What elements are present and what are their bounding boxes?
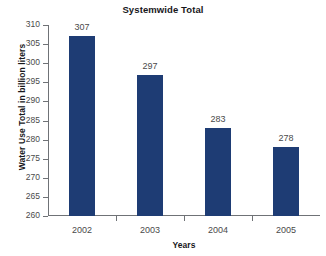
y-axis-tick-label: 275 — [26, 153, 40, 163]
y-axis-tick: 310 — [43, 25, 48, 26]
x-axis-tick — [184, 216, 185, 221]
y-axis-tick-label: 305 — [26, 38, 40, 48]
x-axis-tick — [252, 216, 253, 221]
x-axis-category-label: 2002 — [58, 225, 106, 235]
y-axis-tick-label: 270 — [26, 172, 40, 182]
y-axis-tick-label: 285 — [26, 115, 40, 125]
y-axis-tick: 265 — [43, 197, 48, 198]
y-axis-tick-label: 310 — [26, 19, 40, 29]
y-axis-tick-label: 290 — [26, 95, 40, 105]
y-axis-tick-label: 295 — [26, 76, 40, 86]
y-axis-tick: 295 — [43, 82, 48, 83]
x-axis-category-label: 2004 — [194, 225, 242, 235]
y-axis-tick: 305 — [43, 44, 48, 45]
bar — [205, 128, 231, 216]
bar-value-label: 307 — [62, 22, 102, 32]
plot-area: 3103053002952902852802752702652603072002… — [48, 25, 320, 216]
y-axis-tick: 275 — [43, 159, 48, 160]
y-axis-tick-label: 265 — [26, 191, 40, 201]
y-axis-tick: 300 — [43, 63, 48, 64]
y-axis-line — [48, 25, 49, 216]
x-axis-category-label: 2003 — [126, 225, 174, 235]
bar-value-label: 283 — [198, 114, 238, 124]
y-axis-tick-label: 300 — [26, 57, 40, 67]
bar-value-label: 297 — [130, 61, 170, 71]
bar — [137, 75, 163, 216]
bar-value-label: 278 — [266, 133, 306, 143]
y-axis-tick: 280 — [43, 140, 48, 141]
y-axis-tick-label: 260 — [26, 210, 40, 220]
x-axis-category-label: 2005 — [262, 225, 310, 235]
y-axis-tick: 285 — [43, 121, 48, 122]
bar — [69, 36, 95, 216]
chart-title: Systemwide Total — [0, 4, 326, 15]
y-axis-tick: 260 — [43, 216, 48, 217]
y-axis-tick: 290 — [43, 101, 48, 102]
x-axis-title: Years — [48, 240, 320, 250]
y-axis-tick: 270 — [43, 178, 48, 179]
x-axis-tick — [116, 216, 117, 221]
bar — [273, 147, 299, 216]
y-axis-tick-label: 280 — [26, 134, 40, 144]
bar-chart: Systemwide Total Water Use Total in bill… — [0, 0, 326, 256]
